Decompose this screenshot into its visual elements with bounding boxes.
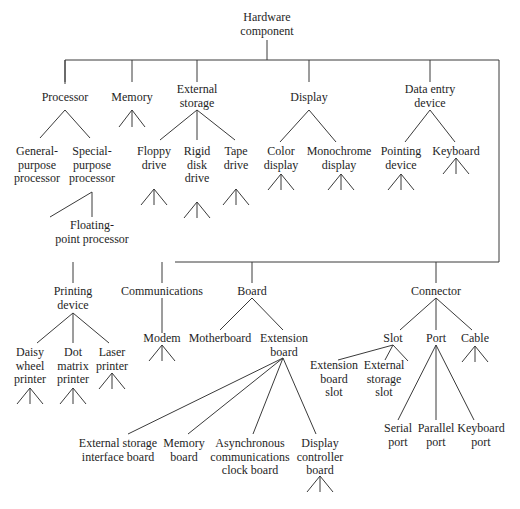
node-async-communications-clock-board: Asynchronous communications clock board xyxy=(210,437,289,478)
node-extension-board-slot: Extension board slot xyxy=(310,359,358,400)
node-monochrome-display: Monochrome display xyxy=(307,145,372,172)
node-external-storage: External storage xyxy=(177,83,218,110)
node-hardware-component: Hardware component xyxy=(240,11,293,38)
node-special-purpose-processor: Special- purpose processor xyxy=(69,145,115,186)
node-display: Display xyxy=(290,91,327,105)
node-laser-printer: Laser printer xyxy=(96,346,128,373)
node-motherboard: Motherboard xyxy=(189,332,252,346)
node-parallel-port: Parallel port xyxy=(418,422,455,449)
node-memory: Memory xyxy=(111,91,152,105)
node-port: Port xyxy=(426,332,446,346)
node-extension-board: Extension board xyxy=(260,332,308,359)
node-communications: Communications xyxy=(121,285,203,299)
node-board: Board xyxy=(237,285,266,299)
node-printing-device: Printing device xyxy=(54,285,93,312)
node-rigid-disk-drive: Rigid disk drive xyxy=(184,145,211,186)
node-general-purpose-processor: General- purpose processor xyxy=(14,145,60,186)
node-memory-board: Memory board xyxy=(163,437,204,464)
node-external-storage-interface-board: External storage interface board xyxy=(79,437,157,464)
node-daisy-wheel-printer: Daisy wheel printer xyxy=(14,346,46,387)
node-serial-port: Serial port xyxy=(384,422,412,449)
node-tape-drive: Tape drive xyxy=(224,145,249,172)
node-data-entry-device: Data entry device xyxy=(405,83,455,110)
node-display-controller-board: Display controller board xyxy=(297,437,344,478)
node-floating-point-processor: Floating- point processor xyxy=(55,219,129,246)
node-floppy-drive: Floppy drive xyxy=(137,145,171,172)
node-processor: Processor xyxy=(42,91,89,105)
node-modem: Modem xyxy=(143,332,180,346)
node-color-display: Color display xyxy=(264,145,299,172)
node-keyboard: Keyboard xyxy=(432,145,479,159)
node-connector: Connector xyxy=(411,285,461,299)
node-slot: Slot xyxy=(383,332,402,346)
node-keyboard-port: Keyboard port xyxy=(457,422,504,449)
node-external-storage-slot: External storage slot xyxy=(364,359,405,400)
node-cable: Cable xyxy=(461,332,489,346)
node-pointing-device: Pointing device xyxy=(381,145,422,172)
node-dot-matrix-printer: Dot matrix printer xyxy=(57,346,89,387)
